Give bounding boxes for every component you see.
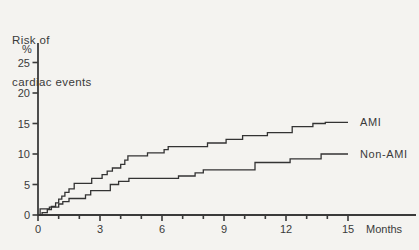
y-tick-label: 10 — [18, 148, 30, 160]
x-tick-label: 6 — [159, 223, 165, 235]
y-tick-label: 5 — [24, 179, 30, 191]
x-tick-label: 9 — [221, 223, 227, 235]
y-axis-unit-label: % — [22, 43, 32, 55]
y-tick-label: 25 — [18, 57, 30, 69]
x-tick-label: 3 — [97, 223, 103, 235]
risk-of-cardiac-events-figure: Risk of cardiac events 0510152025%036912… — [0, 0, 419, 250]
x-tick-label: 15 — [342, 223, 354, 235]
x-tick-label: 0 — [35, 223, 41, 235]
series-label-non-ami: Non-AMI — [360, 148, 408, 160]
x-tick-label: 12 — [280, 223, 292, 235]
curve-non-ami — [38, 154, 348, 215]
y-tick-label: 0 — [24, 209, 30, 221]
y-tick-label: 20 — [18, 87, 30, 99]
x-axis-unit-label: Months — [366, 223, 403, 235]
risk-curve-chart: 0510152025%03691215MonthsAMINon-AMI — [0, 0, 419, 250]
curve-ami — [38, 122, 348, 215]
y-tick-label: 15 — [18, 118, 30, 130]
series-label-ami: AMI — [360, 116, 381, 128]
